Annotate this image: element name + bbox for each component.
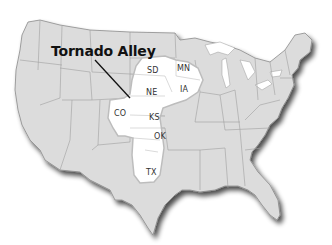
state-label-ok: OK	[154, 132, 166, 141]
state-label-ks: KS	[149, 113, 160, 122]
state-label-tx: TX	[146, 168, 157, 177]
state-label-ne: NE	[146, 88, 157, 97]
map-title: Tornado Alley	[51, 43, 156, 59]
state-label-ia: IA	[180, 85, 188, 94]
state-label-sd: SD	[147, 66, 159, 75]
state-label-co: CO	[114, 109, 126, 118]
us-map	[0, 0, 332, 245]
state-label-mn: MN	[177, 64, 190, 73]
